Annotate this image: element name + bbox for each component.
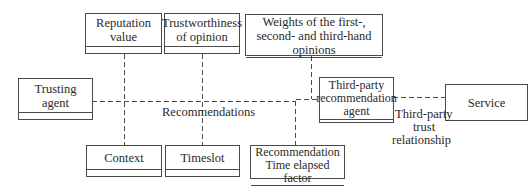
third-party-trust-label-line1: Third-party bbox=[395, 107, 453, 121]
third-party-agent-label: Third-party recommendation agent bbox=[320, 78, 393, 119]
third-party-trust-label-line3: relationship bbox=[392, 133, 451, 147]
weights-box: Weights of the first-, second- and third… bbox=[245, 14, 383, 56]
time-elapsed-label: Recommendation Time elapsed factor bbox=[251, 146, 344, 185]
trustworthiness-box: Trustworthiness of opinion bbox=[164, 13, 240, 54]
trusting-agent-label: Trusting agent bbox=[19, 79, 92, 112]
recommendations-label: Recommendations bbox=[162, 105, 255, 119]
trusting-agent-box: Trusting agent bbox=[18, 78, 93, 120]
trustworthiness-label: Trustworthiness of opinion bbox=[165, 14, 239, 46]
trusting-agent-compartment bbox=[19, 112, 92, 119]
weights-compartment bbox=[246, 57, 382, 58]
reputation-value-box: Reputation value bbox=[85, 13, 162, 54]
context-compartment bbox=[87, 169, 161, 176]
trustworthiness-compartment bbox=[165, 46, 239, 53]
third-party-agent-compartment bbox=[320, 119, 393, 122]
service-label: Service bbox=[446, 85, 527, 120]
third-party-agent-box: Third-party recommendation agent bbox=[319, 77, 394, 123]
reputation-value-compartment bbox=[86, 46, 161, 53]
context-box: Context bbox=[86, 145, 162, 177]
context-label: Context bbox=[87, 146, 161, 169]
time-elapsed-compartment bbox=[251, 185, 344, 186]
time-elapsed-box: Recommendation Time elapsed factor bbox=[250, 145, 345, 179]
service-box: Service bbox=[445, 84, 528, 121]
timeslot-compartment bbox=[166, 169, 239, 176]
timeslot-label: Timeslot bbox=[166, 146, 239, 169]
third-party-trust-label-line2: trust bbox=[408, 120, 440, 134]
reputation-value-label: Reputation value bbox=[86, 14, 161, 46]
timeslot-box: Timeslot bbox=[165, 145, 240, 177]
weights-label: Weights of the first-, second- and third… bbox=[246, 15, 382, 57]
